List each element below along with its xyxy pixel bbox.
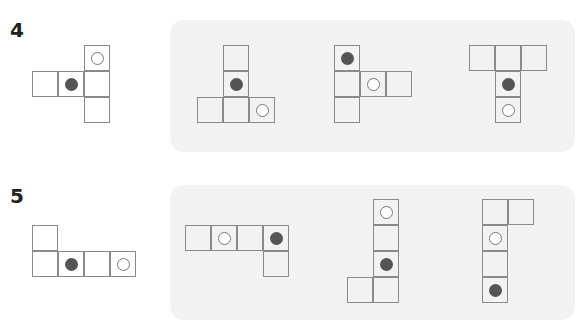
net-face [482, 199, 508, 225]
net-face [84, 251, 110, 277]
net-face [521, 45, 547, 71]
net-face [482, 225, 508, 251]
filled-circle-icon [270, 232, 283, 245]
filled-circle-icon [489, 284, 502, 297]
open-circle-icon [367, 78, 380, 91]
filled-circle-icon [341, 52, 354, 65]
filled-circle-icon [502, 78, 515, 91]
net-face [211, 225, 237, 251]
net-face [263, 225, 289, 251]
net-face [58, 251, 84, 277]
open-circle-icon [256, 104, 269, 117]
net-face [508, 199, 534, 225]
open-circle-icon [218, 232, 231, 245]
net-face [347, 277, 373, 303]
net-face [110, 251, 136, 277]
filled-circle-icon [380, 258, 393, 271]
net-face [58, 71, 84, 97]
net-face [223, 45, 249, 71]
net-face [373, 251, 399, 277]
filled-circle-icon [230, 78, 243, 91]
net-face [84, 45, 110, 71]
net-face [482, 251, 508, 277]
net-face [249, 97, 275, 123]
net-face [32, 251, 58, 277]
net-face [495, 71, 521, 97]
net-face [360, 71, 386, 97]
net-face [84, 71, 110, 97]
net-face [197, 97, 223, 123]
net-face [84, 97, 110, 123]
open-circle-icon [117, 258, 130, 271]
net-face [32, 71, 58, 97]
net-face [334, 71, 360, 97]
net-face [263, 251, 289, 277]
net-face [32, 225, 58, 251]
net-face [495, 97, 521, 123]
open-circle-icon [91, 52, 104, 65]
problem-number: 4 [10, 20, 24, 40]
net-face [495, 45, 521, 71]
open-circle-icon [502, 104, 515, 117]
net-face [237, 225, 263, 251]
net-face [185, 225, 211, 251]
net-face [386, 71, 412, 97]
net-face [482, 277, 508, 303]
net-face [223, 97, 249, 123]
net-face [334, 97, 360, 123]
open-circle-icon [380, 206, 393, 219]
net-face [373, 199, 399, 225]
problem-number: 5 [10, 186, 24, 206]
net-face [469, 45, 495, 71]
net-face [223, 71, 249, 97]
open-circle-icon [489, 232, 502, 245]
net-face [373, 277, 399, 303]
filled-circle-icon [65, 258, 78, 271]
net-face [334, 45, 360, 71]
net-face [373, 225, 399, 251]
filled-circle-icon [65, 78, 78, 91]
